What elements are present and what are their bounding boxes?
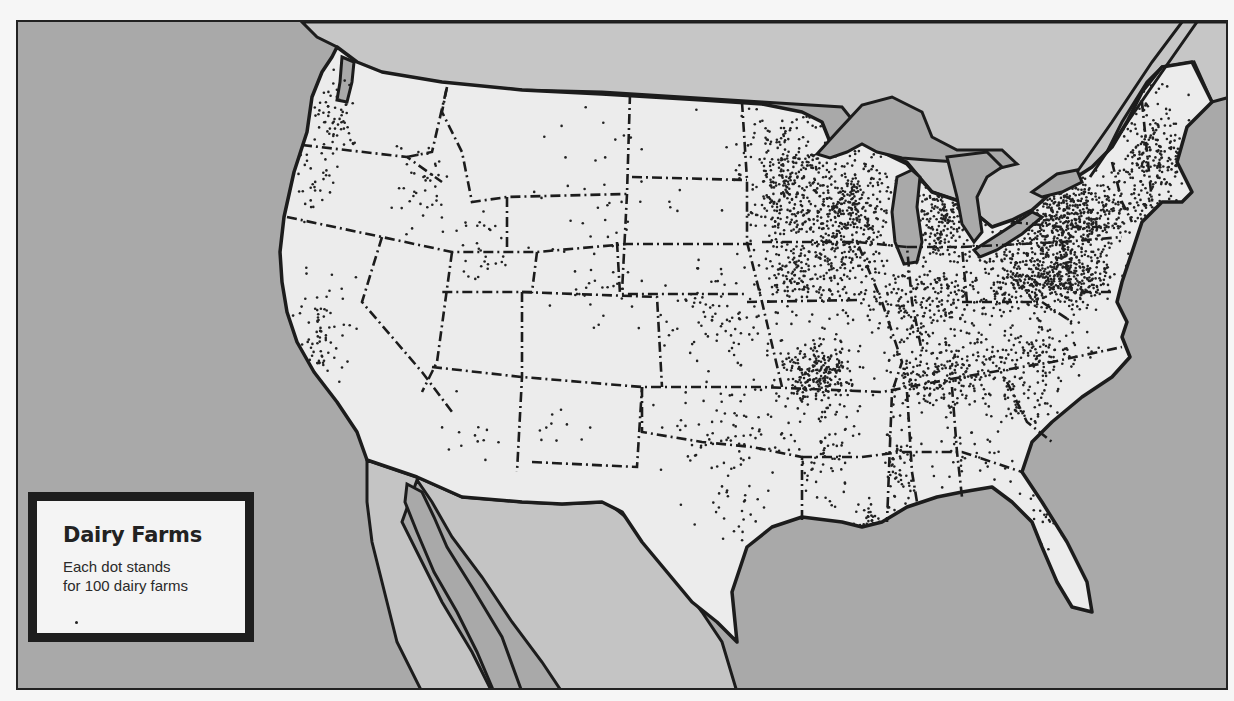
legend-sample-dot-icon bbox=[75, 621, 78, 624]
legend-description-line2: for 100 dairy farms bbox=[63, 577, 188, 594]
legend-title: Dairy Farms bbox=[63, 523, 245, 547]
legend-box: Dairy Farms Each dot stands for 100 dair… bbox=[28, 492, 254, 642]
legend-description: Each dot stands for 100 dairy farms bbox=[63, 557, 245, 595]
legend-description-line1: Each dot stands bbox=[63, 558, 171, 575]
